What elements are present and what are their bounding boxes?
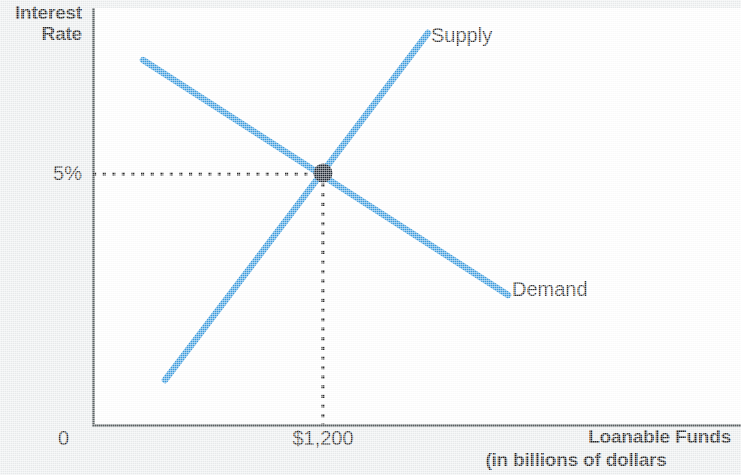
y-axis-title-line1: Interest (0, 3, 82, 24)
demand-curve-label: Demand (512, 279, 588, 301)
origin-label: 0 (58, 428, 69, 450)
loanable-funds-chart-figure: Interest Rate 5% 0 $1,200 Supply Demand … (0, 0, 741, 475)
supply-curve (165, 33, 428, 380)
supply-curve-label: Supply (431, 25, 492, 47)
y-axis-tick-label-rate: 5% (18, 163, 82, 185)
x-axis-title: Loanable Funds (in billions of dollars (349, 427, 731, 470)
equilibrium-point-dot (314, 164, 333, 183)
y-axis-title-line2: Rate (0, 24, 82, 45)
chart-vector-layer (0, 0, 741, 475)
x-axis-title-line2: (in billions of dollars (349, 450, 731, 471)
x-axis-title-line1: Loanable Funds (349, 427, 731, 448)
y-axis-title: Interest Rate (0, 3, 82, 44)
